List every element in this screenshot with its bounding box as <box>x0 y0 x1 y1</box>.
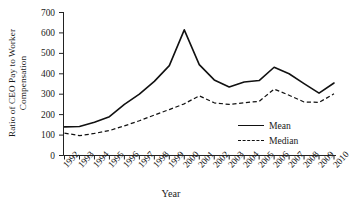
legend-swatch-solid-icon <box>238 122 264 130</box>
y-tick-600: 600 <box>29 28 55 38</box>
legend-swatch-dashed-icon <box>238 137 264 145</box>
y-tick-200: 200 <box>29 110 55 120</box>
series-line-mean <box>65 30 335 127</box>
legend-item-median: Median <box>238 133 298 148</box>
y-tick-700: 700 <box>29 8 55 18</box>
chart-legend: Mean Median <box>238 118 298 148</box>
y-axis <box>59 12 64 156</box>
legend-label-median: Median <box>269 135 298 146</box>
legend-label-mean: Mean <box>269 120 291 131</box>
legend-item-mean: Mean <box>238 118 298 133</box>
y-tick-400: 400 <box>29 69 55 79</box>
y-tick-0: 0 <box>29 151 55 161</box>
y-tick-300: 300 <box>29 89 55 99</box>
y-tick-500: 500 <box>29 48 55 58</box>
y-axis-ticks <box>59 13 64 156</box>
y-tick-100: 100 <box>29 130 55 140</box>
x-axis-label: Year <box>0 188 342 199</box>
